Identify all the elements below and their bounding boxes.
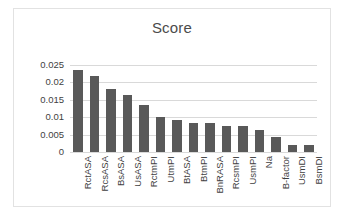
bar [106,89,116,152]
x-axis-slot: BtASA [169,154,185,216]
bar [172,120,182,152]
x-axis-slot: Na [251,154,267,216]
bar [304,145,314,152]
bar-slot [185,65,201,152]
bar [90,76,100,152]
x-axis-slot: RctASA [70,154,86,216]
x-axis-slot: RcsASA [86,154,102,216]
x-axis-slot: UsmPI [235,154,251,216]
y-axis-tick-label: 0 [59,147,64,157]
bar-slot [202,65,218,152]
bar-slot [152,65,168,152]
bar [189,123,199,152]
bar [238,126,248,152]
x-axis-slot: BnRASA [202,154,218,216]
bar-slot [301,65,317,152]
bar-slot [235,65,251,152]
bar [255,130,265,152]
bar-series [70,65,317,152]
x-axis-line [70,152,317,153]
bar-slot [103,65,119,152]
bar [288,145,298,152]
bar [156,117,166,152]
x-axis-slot: B-factor [268,154,284,216]
x-axis-slot: RcsmPI [218,154,234,216]
bar [222,126,232,152]
x-axis-slot: UsASA [119,154,135,216]
chart-container: Score 0.0250.020.0150.010.0050 RctASARcs… [13,8,331,207]
x-axis-slot: RctmPI [136,154,152,216]
x-axis-slot: UsmDI [284,154,300,216]
bar-slot [251,65,267,152]
bar [205,123,215,152]
y-axis-tick-label: 0.01 [46,112,65,122]
x-axis-slot: BsmDI [301,154,317,216]
y-axis-tick-label: 0.025 [40,60,64,70]
bar-slot [136,65,152,152]
bar-slot [70,65,86,152]
bar [271,137,281,152]
bar-slot [268,65,284,152]
y-axis-tick-label: 0.02 [46,78,65,88]
bar [139,105,149,152]
bar [123,95,133,152]
bar-slot [218,65,234,152]
bar-slot [119,65,135,152]
y-axis-tick-label: 0.015 [40,95,64,105]
bar-slot [169,65,185,152]
y-axis-tick-label: 0.005 [40,130,64,140]
x-axis: RctASARcsASABsASAUsASARctmPIUtmPIBtASABt… [70,154,317,216]
bar [73,70,83,152]
plot-area [70,65,317,152]
x-axis-slot: UtmPI [152,154,168,216]
x-axis-tick-label: BsmDI [314,156,324,185]
bar-slot [86,65,102,152]
y-axis: 0.0250.020.0150.010.0050 [18,65,68,152]
x-axis-slot: BsASA [103,154,119,216]
bar-slot [284,65,300,152]
x-axis-slot: BtmPI [185,154,201,216]
chart-title: Score [14,19,330,36]
